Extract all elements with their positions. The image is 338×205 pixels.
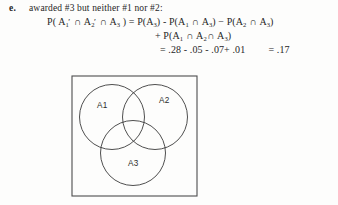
minus-sign-4: - [205, 44, 208, 55]
problem-prompt: awarded #3 but neither #1 nor #2: [29, 3, 163, 13]
venn-label-a2: A2 [159, 96, 170, 105]
minus-sign-2: − [218, 16, 224, 27]
equation-lhs: P( A1′ ∩ A2′ ∩ A3 ) [47, 16, 126, 27]
plus-sign-2: + [224, 44, 230, 55]
term-p-a2-a3: P(A2 ∩ A3) [227, 16, 274, 27]
venn-circle-a3 [101, 121, 166, 186]
venn-label-a1: A1 [97, 101, 108, 110]
value-p-a1-a3: .05 [190, 44, 203, 55]
value-result: .17 [277, 44, 290, 55]
venn-circle-a1 [80, 85, 145, 150]
term-p-a1-a2-a3: P(A1 ∩ A2∩ A3) [163, 30, 231, 41]
value-p-a1-a2-a3: .01 [232, 44, 245, 55]
venn-diagram-figure: A1 A2 A3 [71, 75, 198, 197]
value-p-a3: .28 [168, 44, 181, 55]
term-p-a1-a3: P(A1 ∩ A3) [169, 16, 216, 27]
equation-line-3: = .28 - .05 - .07+ .01 = .17 [160, 44, 290, 55]
term-p-a3: P(A3) [137, 16, 160, 27]
scanned-page: e. awarded #3 but neither #1 nor #2: P( … [0, 0, 338, 205]
value-p-a2-a3: .07 [211, 44, 224, 55]
plus-sign-1: + [155, 30, 161, 41]
equation-line-1: P( A1′ ∩ A2′ ∩ A3 ) = P(A3) - P(A1 ∩ A3)… [47, 16, 273, 27]
venn-circle-a2 [123, 85, 188, 150]
problem-item-label: e. [9, 3, 16, 13]
venn-label-a3: A3 [128, 159, 139, 168]
minus-sign-1: - [163, 16, 166, 27]
equals-sign-1: = [129, 16, 135, 27]
equals-sign-2: = [160, 44, 166, 55]
equals-sign-3: = [269, 44, 275, 55]
equation-line-2: + P(A1 ∩ A2∩ A3) [155, 30, 231, 41]
minus-sign-3: - [184, 44, 187, 55]
